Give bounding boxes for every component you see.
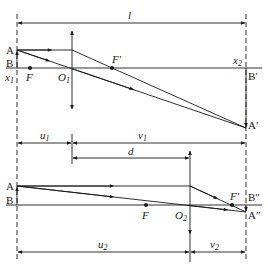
label-v2: v2 bbox=[210, 238, 219, 252]
ray-center-arrow bbox=[17, 50, 48, 61]
label-bottom-Fprime: F′ bbox=[229, 190, 240, 202]
label-u2: u2 bbox=[98, 238, 108, 252]
label-bottom-F: F bbox=[141, 209, 149, 221]
label-x1: x1 bbox=[4, 71, 14, 85]
label-x2: x2 bbox=[232, 54, 242, 68]
label-l: l bbox=[128, 9, 131, 21]
ray-center-bottom-arrow2 bbox=[190, 206, 226, 210]
ray-parallel-bottom-arrow2 bbox=[190, 186, 216, 198]
label-Aprime: A′ bbox=[248, 119, 258, 131]
lens-diagram: l A B x1 F O1 F′ x2 B′ A′ u1 v1 d A B F … bbox=[0, 0, 268, 272]
label-v1: v1 bbox=[138, 129, 147, 143]
ray-center-bottom-arrow bbox=[17, 186, 112, 197]
label-top-Fprime: F′ bbox=[111, 53, 122, 65]
top-focus-front-dot bbox=[28, 66, 32, 70]
label-bottom-B: B bbox=[6, 194, 13, 206]
label-bottom-A: A bbox=[6, 180, 14, 192]
label-top-F: F bbox=[25, 71, 33, 83]
label-O2: O2 bbox=[175, 209, 187, 223]
label-Adoubleprime: A″ bbox=[248, 209, 261, 221]
label-Bdoubleprime: B″ bbox=[248, 191, 260, 203]
label-top-A: A bbox=[6, 44, 14, 56]
label-Bprime: B′ bbox=[248, 70, 258, 82]
bottom-focus-front-dot bbox=[144, 203, 148, 207]
diagram-canvas: l A B x1 F O1 F′ x2 B′ A′ u1 v1 d A B F … bbox=[0, 0, 268, 272]
top-focus-back-dot bbox=[110, 66, 114, 70]
label-O1: O1 bbox=[58, 71, 70, 85]
label-top-B: B bbox=[6, 57, 13, 69]
label-d: d bbox=[128, 145, 134, 157]
bottom-focus-back-dot bbox=[230, 203, 234, 207]
label-u1: u1 bbox=[40, 129, 50, 143]
ray-center-arrow2 bbox=[72, 69, 132, 89]
